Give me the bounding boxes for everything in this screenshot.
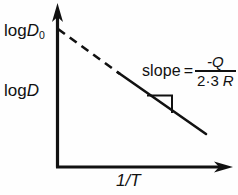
slope-triangle bbox=[147, 96, 172, 114]
y-axis-label: logD bbox=[4, 82, 39, 99]
extrapolation-dashed-line bbox=[58, 29, 120, 74]
log-prefix-d: log bbox=[4, 81, 27, 100]
log-prefix-d0: log bbox=[4, 21, 27, 40]
slope-word-label: slope bbox=[142, 62, 181, 80]
denominator-symbol: R bbox=[223, 72, 234, 89]
fraction-numerator: -Q bbox=[205, 54, 226, 70]
x-label-prefix: 1/ bbox=[116, 171, 130, 190]
slope-annotation: slope = -Q 2·3R bbox=[142, 54, 236, 88]
x-axis-label: 1/T bbox=[116, 172, 141, 189]
d-symbol: D bbox=[27, 81, 39, 100]
x-label-symbol: T bbox=[130, 171, 140, 190]
arrhenius-plot-figure: logD0 logD 1/T slope = -Q 2·3R bbox=[0, 0, 238, 195]
fraction-denominator: 2·3R bbox=[195, 72, 236, 88]
denominator-value: 2·3 bbox=[197, 72, 219, 89]
slope-fraction: -Q 2·3R bbox=[195, 54, 236, 88]
equals-sign: = bbox=[184, 62, 193, 80]
y-intercept-label: logD0 bbox=[4, 22, 45, 39]
d0-subscript: 0 bbox=[39, 29, 45, 41]
d-symbol-d0: D bbox=[27, 21, 39, 40]
